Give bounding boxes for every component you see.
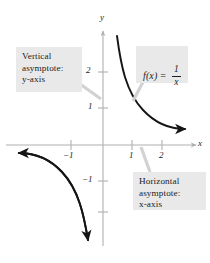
callout-horizontal-asymptote: Horizontal asymptote: x-axis (133, 172, 206, 210)
y-axis-label: y (100, 12, 104, 22)
y-tick-label--1: −1 (82, 174, 93, 184)
leader-line-horizontal-asymptote (141, 147, 150, 172)
formula-fraction: 1 x (172, 65, 181, 87)
x-axis-label: x (198, 138, 202, 148)
formula-denominator: x (172, 77, 180, 88)
callout-function-formula: f(x) = 1 x (136, 46, 188, 83)
formula-function-name: f(x) (143, 70, 157, 82)
y-tick-label-1: 1 (88, 101, 93, 111)
leader-line-vertical-asymptote (80, 84, 101, 99)
y-tick-label-2: 2 (86, 65, 91, 75)
formula-equals-sign: = (160, 70, 166, 82)
formula-expression: f(x) = 1 x (136, 58, 188, 95)
graph-canvas (0, 0, 210, 263)
x-tick-label-2: 2 (159, 150, 164, 160)
x-tick-label--1: −1 (63, 150, 74, 160)
formula-numerator: 1 (172, 65, 181, 76)
x-tick-label-1: 1 (129, 150, 134, 160)
curve-branch-lower-left-left (19, 153, 88, 240)
callout-vertical-asymptote: Vertical asymptote: y-axis (16, 47, 82, 92)
figure-graph-of-one-over-x: y x −1 1 2 2 1 −1 Vertical asymptote: y-… (0, 0, 210, 263)
